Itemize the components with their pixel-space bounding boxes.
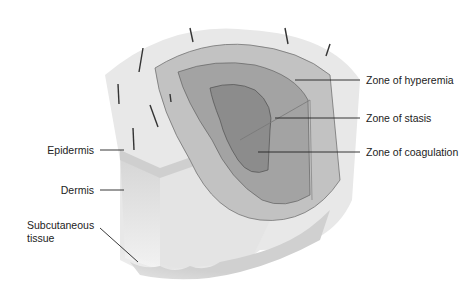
label-dermis: Dermis	[28, 184, 94, 196]
label-zone-coagulation: Zone of coagulation	[366, 146, 458, 158]
label-zone-stasis: Zone of stasis	[366, 112, 431, 124]
label-subcutaneous-line2: tissue	[27, 232, 54, 244]
label-epidermis: Epidermis	[28, 144, 94, 156]
label-zone-hyperemia: Zone of hyperemia	[366, 74, 454, 86]
label-subcutaneous-line1: Subcutaneous	[27, 219, 94, 231]
